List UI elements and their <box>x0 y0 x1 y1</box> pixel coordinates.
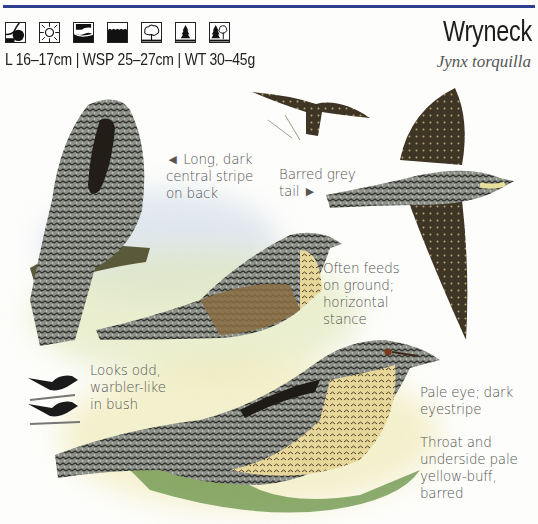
note-throat: Throat and underside pale yellow-buff, b… <box>420 434 518 502</box>
note-bush: Looks odd, warbler-like in bush <box>90 362 166 413</box>
note-tail: Barred grey tail ► <box>279 166 356 200</box>
note-back-stripe: ◄ Long, dark central stripe on back <box>166 151 253 202</box>
note-eye: Pale eye; dark eyestripe <box>420 384 513 418</box>
wryneck-back-view <box>30 100 150 346</box>
note-ground: Often feeds on ground; horizontal stance <box>323 260 399 328</box>
wryneck-flight-small <box>252 92 370 140</box>
warbler-like-silhouettes <box>28 376 80 424</box>
